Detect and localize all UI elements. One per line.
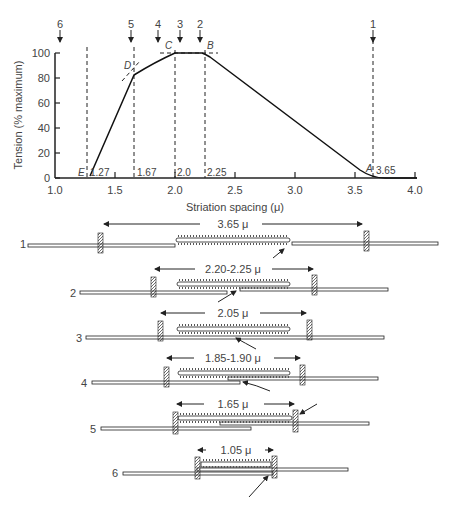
svg-text:3.65 μ: 3.65 μ <box>218 218 249 230</box>
point-labels: D C B E A <box>78 40 373 178</box>
y-axis-label: Tension (% maximum) <box>12 61 24 170</box>
sarcomere-5: 5 1.65 μ <box>90 398 369 435</box>
svg-text:2.05 μ: 2.05 μ <box>218 307 249 319</box>
sarcomere-6: 6 1.05 μ <box>112 444 348 497</box>
svg-text:1.67: 1.67 <box>137 167 157 178</box>
x-axis-label: Striation spacing (μ) <box>186 201 284 213</box>
marker-labels: 1.27 1.67 2.0 2.25 3.65 <box>90 165 396 178</box>
svg-text:60: 60 <box>38 97 50 109</box>
svg-text:1.65 μ: 1.65 μ <box>218 398 249 410</box>
svg-text:2: 2 <box>197 18 203 30</box>
sarcomere-2: 2 2.20-2.25 μ <box>70 263 388 302</box>
svg-text:2.0: 2.0 <box>177 167 191 178</box>
state-arrows: 6 5 4 3 2 1 <box>57 18 376 42</box>
svg-text:4: 4 <box>155 18 161 30</box>
svg-text:0: 0 <box>44 172 50 184</box>
svg-text:1.0: 1.0 <box>47 184 62 196</box>
svg-text:2.5: 2.5 <box>227 184 242 196</box>
svg-text:6: 6 <box>112 467 118 479</box>
svg-text:4: 4 <box>81 377 87 389</box>
svg-text:6: 6 <box>57 18 63 30</box>
figure: 0 20 40 60 80 100 1.0 1.5 2.0 2.5 3.0 3.… <box>0 0 454 512</box>
svg-text:1.5: 1.5 <box>107 184 122 196</box>
svg-text:1: 1 <box>20 238 26 250</box>
svg-text:1.27: 1.27 <box>90 167 110 178</box>
svg-text:D: D <box>124 60 131 71</box>
svg-text:1.05 μ: 1.05 μ <box>221 444 252 456</box>
svg-text:C: C <box>165 40 173 51</box>
x-tick-labels: 1.0 1.5 2.0 2.5 3.0 3.5 4.0 <box>47 184 422 196</box>
svg-text:B: B <box>207 40 214 51</box>
svg-text:3.65: 3.65 <box>376 165 396 176</box>
svg-text:2.20-2.25 μ: 2.20-2.25 μ <box>205 263 261 275</box>
svg-text:40: 40 <box>38 122 50 134</box>
svg-text:3: 3 <box>76 332 82 344</box>
svg-text:E: E <box>78 167 85 178</box>
y-tick-labels: 0 20 40 60 80 100 <box>32 47 50 184</box>
svg-text:2: 2 <box>70 287 76 299</box>
svg-text:5: 5 <box>128 18 134 30</box>
svg-text:2.25: 2.25 <box>207 167 227 178</box>
svg-text:100: 100 <box>32 47 50 59</box>
svg-text:80: 80 <box>38 72 50 84</box>
svg-text:3.0: 3.0 <box>287 184 302 196</box>
chart-axes <box>55 53 417 178</box>
sarcomere-4: 4 1.85-1.90 μ <box>81 352 378 391</box>
svg-text:A: A <box>365 163 373 174</box>
svg-text:2.0: 2.0 <box>167 184 182 196</box>
svg-text:3.5: 3.5 <box>347 184 362 196</box>
svg-text:4.0: 4.0 <box>407 184 422 196</box>
svg-text:5: 5 <box>90 423 96 435</box>
sarcomere-1: 1 3.65 μ <box>20 218 438 258</box>
tension-curve <box>90 53 417 178</box>
svg-text:1: 1 <box>370 18 376 30</box>
sarcomere-3: 3 2.05 μ <box>76 307 384 349</box>
svg-text:1.85-1.90 μ: 1.85-1.90 μ <box>205 352 261 364</box>
svg-text:20: 20 <box>38 147 50 159</box>
svg-text:3: 3 <box>177 18 183 30</box>
